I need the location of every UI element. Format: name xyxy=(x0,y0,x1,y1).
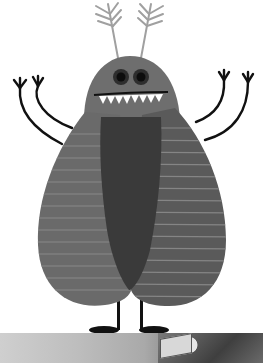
antenna-left xyxy=(96,3,121,58)
antenna-right xyxy=(138,4,163,58)
arm-left xyxy=(14,76,72,144)
bug-monster-illustration xyxy=(0,0,263,363)
arm-right xyxy=(196,70,253,140)
background-photo-strip xyxy=(0,333,263,363)
